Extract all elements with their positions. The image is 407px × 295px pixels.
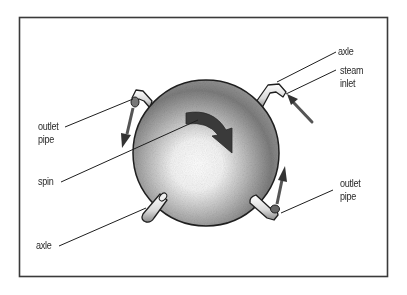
- outlet-left-arrow-icon: [121, 108, 133, 148]
- label-outlet-pipe-left-line1: outlet: [38, 120, 59, 133]
- outlet-pipe-left: [131, 90, 152, 108]
- label-steam-inlet: steam inlet: [340, 64, 363, 89]
- outlet-pipe-right: [250, 195, 280, 220]
- label-steam-inlet-line1: steam: [340, 64, 363, 77]
- leader-axle-top: [277, 52, 336, 82]
- leader-axle-bottom: [59, 208, 146, 246]
- label-outlet-pipe-left-line2: pipe: [38, 133, 59, 146]
- label-outlet-pipe-right-line2: pipe: [340, 190, 361, 203]
- label-axle-top: axle: [338, 45, 354, 58]
- label-outlet-pipe-left: outlet pipe: [38, 120, 59, 145]
- steam-inlet-arrow-icon: [287, 94, 312, 122]
- label-axle-bottom: axle: [36, 239, 52, 252]
- label-outlet-pipe-right: outlet pipe: [340, 177, 361, 202]
- label-outlet-pipe-right-line1: outlet: [340, 177, 361, 190]
- label-steam-inlet-line2: inlet: [340, 77, 363, 90]
- leader-outlet-left: [65, 99, 133, 127]
- label-spin: spin: [38, 175, 54, 188]
- outlet-right-arrow-icon: [277, 166, 287, 204]
- leader-outlet-right: [281, 190, 333, 213]
